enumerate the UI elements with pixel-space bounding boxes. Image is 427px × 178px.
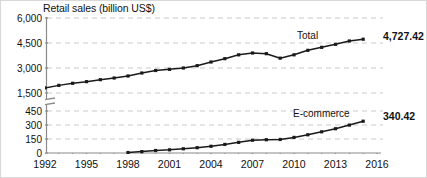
x-tick-label-2007: 2007	[241, 158, 264, 170]
y-tick-label-450: 450	[2, 107, 42, 117]
x-axis: 199219951998200120042007201020132016	[1, 158, 427, 176]
x-tick-label-2004: 2004	[199, 158, 222, 170]
y-tick-label-150: 150	[2, 135, 42, 145]
gridlines	[47, 18, 383, 139]
axis-break-marker	[45, 98, 55, 106]
series-end-value-total: 4,727.42	[383, 30, 424, 42]
y-tick-label-4500: 4,500	[2, 39, 42, 49]
x-tick-label-2010: 2010	[282, 158, 305, 170]
x-tick-label-2013: 2013	[324, 158, 347, 170]
chart-svg	[45, 17, 383, 154]
y-tick-label-300: 300	[2, 121, 42, 131]
y-axis: 6,000 4,500 3,000 1,500 450 300 150 0	[1, 1, 42, 178]
x-tick-label-2001: 2001	[158, 158, 181, 170]
plot-area	[45, 17, 383, 154]
chart-title: Retail sales (billion US$)	[43, 2, 155, 15]
x-tick-label-2016: 2016	[365, 158, 388, 170]
y-tick-label-1500: 1,500	[2, 89, 42, 99]
x-tick-label-1992: 1992	[33, 158, 56, 170]
y-tick-label-3000: 3,000	[2, 64, 42, 74]
series-total	[45, 38, 365, 90]
y-tick-label-6000: 6,000	[2, 14, 42, 24]
chart-figure: Retail sales (billion US$) 6,000 4,500 3…	[0, 0, 427, 178]
x-tick-label-1998: 1998	[116, 158, 139, 170]
series-end-value-ecommerce: 340.42	[383, 110, 415, 122]
axis-lines	[45, 17, 381, 153]
series-label-total: Total	[297, 30, 318, 41]
series-label-ecommerce: E-commerce	[293, 108, 350, 119]
x-tick-label-1995: 1995	[75, 158, 98, 170]
